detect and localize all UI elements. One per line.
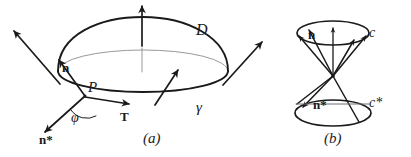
normal-vector-left	[14, 31, 60, 84]
point-P-marker	[84, 95, 87, 98]
tangent-vector-T	[85, 97, 129, 104]
cone-generator-lower-1	[303, 76, 333, 107]
normal-vector-right	[223, 42, 262, 85]
cone-generator-upper-5	[333, 36, 366, 76]
normal-vector-interior	[155, 70, 178, 105]
cone-apex	[331, 74, 335, 78]
surface-cap-D	[58, 17, 228, 71]
cone-generator-lower-3	[333, 76, 359, 122]
angle-arc-phi	[71, 110, 96, 118]
figure-root: D γ n P φ T n* (a) c c* n n* (b)	[0, 0, 411, 157]
boundary-curve-gamma	[58, 71, 228, 92]
panel-b-graphics	[295, 21, 371, 126]
figure-canvas	[0, 0, 411, 157]
panel-a-graphics	[14, 6, 262, 132]
conormal-vector-at-P	[45, 96, 85, 132]
